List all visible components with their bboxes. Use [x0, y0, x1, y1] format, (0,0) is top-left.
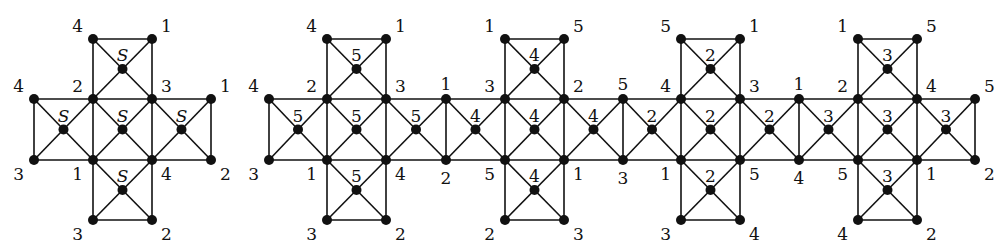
vertex — [147, 215, 157, 225]
vertex-label: 1 — [441, 74, 452, 94]
center-label: 3 — [882, 166, 893, 186]
vertex-label: 2 — [484, 224, 495, 244]
vertex-label: 2 — [161, 224, 172, 244]
vertex — [559, 94, 569, 104]
center-label: 2 — [705, 45, 716, 65]
vertex — [676, 155, 686, 165]
vertex-label: 5 — [749, 164, 760, 184]
vertex-label: 4 — [13, 76, 24, 96]
center-label: S — [117, 166, 129, 186]
vertex — [322, 155, 332, 165]
center-label: 3 — [823, 106, 834, 126]
vertex — [970, 155, 980, 165]
vertex — [559, 34, 569, 44]
vertex — [530, 125, 540, 135]
vertex-label: 2 — [573, 76, 584, 96]
vertex-label: 2 — [220, 164, 231, 184]
vertex-label: 1 — [794, 74, 805, 94]
vertex — [88, 94, 98, 104]
vertex — [676, 34, 686, 44]
vertex-label: 4 — [72, 16, 83, 36]
vertex-label: 3 — [484, 76, 495, 96]
vertex-label: 3 — [248, 164, 259, 184]
vertex — [177, 125, 187, 135]
vertex — [794, 155, 804, 165]
vertex — [264, 94, 274, 104]
center-label: S — [117, 106, 129, 126]
center-label: 5 — [351, 166, 362, 186]
vertex-label: 2 — [926, 224, 937, 244]
vertex-label: 5 — [618, 74, 629, 94]
vertex-label: 2 — [72, 76, 83, 96]
vertex-label: 2 — [837, 76, 848, 96]
vertex-label: 2 — [306, 76, 317, 96]
vertex — [912, 34, 922, 44]
center-label: 3 — [882, 106, 893, 126]
vertex-label: 4 — [395, 164, 406, 184]
vertex — [381, 215, 391, 225]
vertex-label: 3 — [72, 224, 83, 244]
vertex-label: 1 — [660, 164, 671, 184]
center-label: 4 — [529, 166, 540, 186]
center-label: 2 — [705, 166, 716, 186]
vertex-label: 3 — [618, 168, 629, 188]
vertex — [824, 125, 834, 135]
vertex — [853, 94, 863, 104]
vertex — [618, 155, 628, 165]
vertex — [706, 125, 716, 135]
center-label: 2 — [764, 106, 775, 126]
vertex — [735, 155, 745, 165]
vertex-label: 5 — [837, 164, 848, 184]
vertex — [706, 185, 716, 195]
vertex-label: 5 — [573, 16, 584, 36]
vertex-label: 5 — [484, 164, 495, 184]
center-label: 4 — [588, 106, 599, 126]
vertex — [206, 155, 216, 165]
vertex — [441, 155, 451, 165]
vertex — [264, 155, 274, 165]
vertex — [735, 34, 745, 44]
vertex — [381, 94, 391, 104]
center-label: 5 — [293, 106, 304, 126]
center-label: 5 — [351, 106, 362, 126]
vertex — [88, 34, 98, 44]
vertex — [118, 64, 128, 74]
vertex — [706, 64, 716, 74]
strip-graph-numbered: 5554442223335544223341155115423132543124… — [248, 16, 995, 244]
vertex — [322, 215, 332, 225]
vertex — [206, 94, 216, 104]
vertex — [853, 34, 863, 44]
vertex — [471, 125, 481, 135]
vertex — [589, 125, 599, 135]
vertex — [147, 34, 157, 44]
center-label: 2 — [647, 106, 658, 126]
vertex — [559, 215, 569, 225]
vertex — [293, 125, 303, 135]
vertex — [794, 94, 804, 104]
vertex-label: 4 — [794, 168, 805, 188]
vertex — [88, 215, 98, 225]
center-label: S — [58, 106, 70, 126]
vertex-label: 4 — [248, 76, 259, 96]
vertex — [381, 34, 391, 44]
vertex — [883, 125, 893, 135]
cross-graph-s: SSSSS414231314232 — [13, 16, 231, 244]
vertex — [29, 94, 39, 104]
center-label: 3 — [941, 106, 952, 126]
vertex — [618, 94, 628, 104]
vertex — [352, 185, 362, 195]
vertex — [735, 94, 745, 104]
vertex — [912, 215, 922, 225]
vertex — [147, 94, 157, 104]
vertex-label: 4 — [926, 76, 937, 96]
vertex-label: 1 — [161, 16, 172, 36]
vertex-label: 3 — [660, 224, 671, 244]
vertex — [147, 155, 157, 165]
vertex-label: 1 — [573, 164, 584, 184]
vertex — [441, 94, 451, 104]
vertex — [647, 125, 657, 135]
vertex — [853, 215, 863, 225]
vertex-label: 1 — [306, 164, 317, 184]
center-label: 4 — [470, 106, 481, 126]
vertex-label: 2 — [984, 164, 995, 184]
